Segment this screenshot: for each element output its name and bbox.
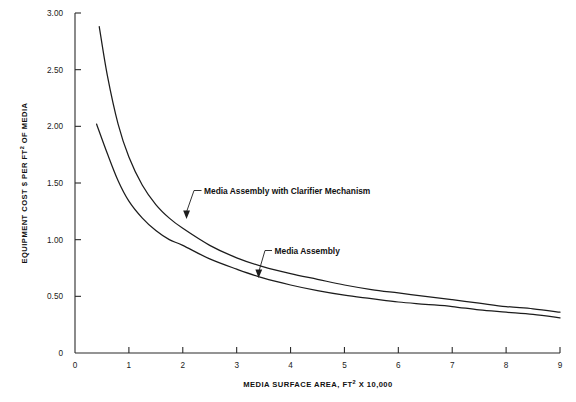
x-tick-label-9: 9 [558,361,563,370]
y-tick-label-0: 0 [58,349,63,358]
data-series-group [97,27,560,318]
y-tick-label-6: 3.00 [47,9,63,18]
arrowhead-media-assembly [255,269,262,278]
x-tick-label-1: 1 [127,361,132,370]
x-tick-label-4: 4 [288,361,293,370]
leader-line-clarifier [187,191,202,213]
y-tick-label-1: 0.50 [47,292,63,301]
x-axis-title-suffix: X 10,000 [356,380,393,389]
annotation-label-clarifier: Media Assembly with Clarifier Mechanism [204,186,370,196]
x-axis-title: MEDIA SURFACE AREA, FT2 X 10,000 [243,379,392,389]
y-axis-tick-labels: 00.501.001.502.002.503.00 [47,9,63,358]
x-tick-label-6: 6 [396,361,401,370]
y-axis-title-suffix: OF MEDIA [20,102,29,145]
annotation-label-media-assembly: Media Assembly [275,246,341,256]
x-tick-label-5: 5 [342,361,347,370]
y-axis-title-prefix: EQUIPMENT COST $ PER FT [20,149,29,263]
x-tick-label-3: 3 [234,361,239,370]
y-tick-label-4: 2.00 [47,122,63,131]
axes-group [75,13,560,353]
x-tick-label-2: 2 [180,361,185,370]
chart-canvas: 00.501.001.502.002.503.00 0123456789 Med… [0,0,576,402]
chart-figure: 00.501.001.502.002.503.00 0123456789 Med… [0,0,576,402]
y-tick-label-2: 1.00 [47,236,63,245]
y-axis-ticks [75,13,81,296]
x-axis-tick-labels: 0123456789 [73,361,563,370]
y-tick-label-5: 2.50 [47,66,63,75]
x-axis-ticks [129,347,560,353]
y-axis-title: EQUIPMENT COST $ PER FT2 OF MEDIA [19,102,29,263]
x-tick-label-0: 0 [73,361,78,370]
arrowhead-clarifier [183,211,190,219]
x-tick-label-7: 7 [450,361,455,370]
x-tick-label-8: 8 [504,361,509,370]
series-line-media-assembly-with-clarifier-mechanism [99,27,560,313]
series-line-media-assembly [97,124,560,318]
y-tick-label-3: 1.50 [47,179,63,188]
x-axis-title-prefix: MEDIA SURFACE AREA, FT [243,380,352,389]
